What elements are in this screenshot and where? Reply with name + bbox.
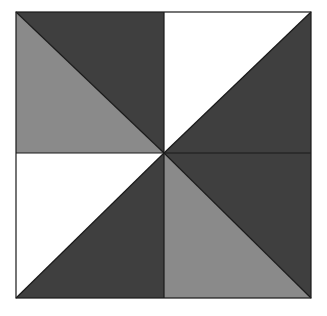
pinwheel-quilt-diagram (0, 0, 327, 316)
